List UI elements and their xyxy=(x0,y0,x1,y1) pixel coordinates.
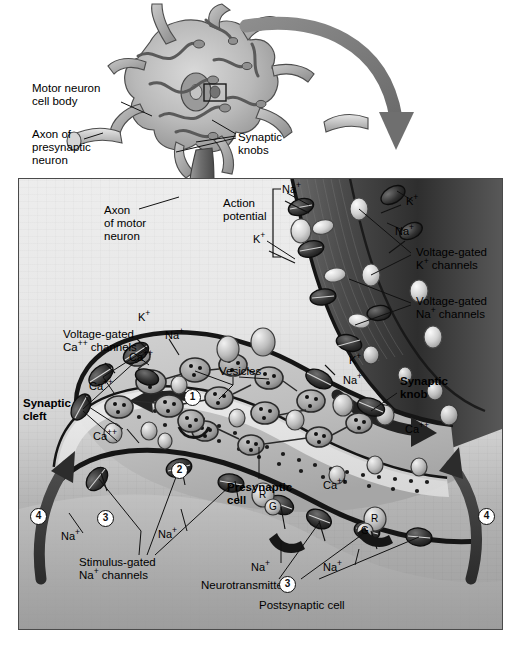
ion-label-ca-1: Ca++ xyxy=(129,351,153,363)
synapse-detail-panel: Axonof motorneuron Actionpotential Volta… xyxy=(18,178,503,630)
synapse-figure: Motor neuroncell body Axon ofpresynaptic… xyxy=(0,0,521,646)
label-stimulus-gated-na-channels: Stimulus-gatedNa+ channels xyxy=(79,556,156,582)
ion-label-ca-2: Ca++ xyxy=(89,380,113,392)
label-vesicles: Vesicles xyxy=(219,365,261,378)
step-number-4b: 4 xyxy=(478,508,495,525)
label-synaptic-knob: Synapticknob xyxy=(400,375,448,401)
receptor-label-g-2: G xyxy=(361,525,369,537)
ion-label-k-3: K+ xyxy=(138,311,150,323)
receptor-label-r-1: R xyxy=(259,489,266,501)
label-voltage-gated-ca-channels: Voltage-gatedCa++ channels xyxy=(63,328,137,354)
step-number-3b: 3 xyxy=(279,576,296,593)
ion-label-ca-5: Ca++ xyxy=(323,479,347,491)
label-axon-of-presynaptic-neuron: Axon ofpresynapticneuron xyxy=(32,128,91,167)
step-number-3a: 3 xyxy=(97,510,114,527)
step-number-1: 1 xyxy=(184,389,201,406)
ion-label-k-4: K+ xyxy=(349,354,361,366)
ion-label-na-3: Na+ xyxy=(165,329,184,341)
label-synaptic-cleft: Synapticcleft xyxy=(23,397,71,423)
impulse-arrow-right xyxy=(439,447,477,579)
ion-label-ca-3: Ca++ xyxy=(93,430,117,442)
label-motor-neuron-cell-body: Motor neuroncell body xyxy=(32,82,100,108)
ion-label-ca-4: Ca++ xyxy=(405,423,429,435)
ion-label-na-2: Na+ xyxy=(395,225,414,237)
label-synaptic-knobs: Synapticknobs xyxy=(238,131,282,157)
receptor-label-g-1: G xyxy=(269,501,277,513)
step-number-4a: 4 xyxy=(30,508,47,525)
step-number-2: 2 xyxy=(171,462,188,479)
label-voltage-gated-k-channels: Voltage-gatedK+ channels xyxy=(416,246,487,272)
label-action-potential: Actionpotential xyxy=(223,197,266,223)
label-voltage-gated-na-channels: Voltage-gatedNa+ channels xyxy=(416,295,487,321)
ion-label-k-1: K+ xyxy=(253,233,265,245)
ion-label-na-7: Na+ xyxy=(251,561,270,573)
ion-label-na-6: Na+ xyxy=(158,528,177,540)
label-postsynaptic-cell: Postsynaptic cell xyxy=(259,599,345,612)
ion-label-k-2: K+ xyxy=(406,195,418,207)
ion-label-na-5: Na+ xyxy=(61,530,80,542)
presynaptic-axon-right-group xyxy=(324,115,368,132)
ion-label-na-1: Na+ xyxy=(282,183,301,195)
label-axon-of-motor-neuron: Axonof motorneuron xyxy=(104,204,146,243)
ion-label-na-8: Na+ xyxy=(323,561,342,573)
receptor-label-r-2: R xyxy=(371,513,378,525)
ion-label-na-4: Na+ xyxy=(343,374,362,386)
motor-axon-stem xyxy=(190,148,214,182)
